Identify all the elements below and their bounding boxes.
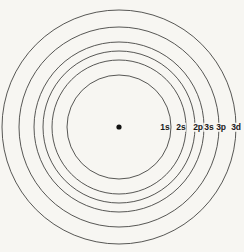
nucleus-dot [116, 124, 121, 129]
shell-label-3p: 3p [216, 123, 227, 132]
shell-label-1s: 1s [160, 123, 170, 132]
shell-label-3d: 3d [231, 123, 242, 132]
shell-label-3s: 3s [204, 123, 214, 132]
shell-label-2p: 2p [193, 123, 204, 132]
orbital-diagram: 1s 2s 2p 3s 3p 3d [0, 0, 244, 252]
shell-label-2s: 2s [176, 123, 186, 132]
